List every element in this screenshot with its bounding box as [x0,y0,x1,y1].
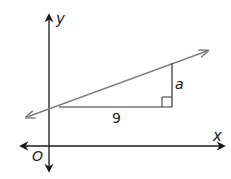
vertical-leg-label: a [175,76,184,92]
horizontal-leg-label: 9 [112,110,121,126]
x-axis-label: x [212,127,222,145]
right-angle-marker [162,97,172,107]
diagram-canvas: y x O a 9 [0,0,231,179]
y-axis-label: y [55,10,66,28]
coordinate-plane: y x O a 9 [0,0,231,179]
origin-label: O [32,148,43,164]
